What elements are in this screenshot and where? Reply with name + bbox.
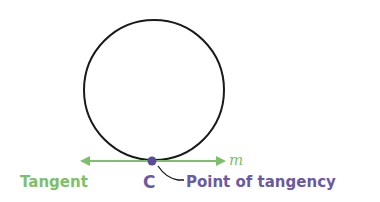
- tangent-label: Tangent: [20, 173, 88, 191]
- leader-line: [158, 166, 184, 180]
- line-m-label: m: [229, 151, 243, 169]
- point-of-tangency-label: Point of tangency: [186, 173, 336, 191]
- tangent-diagram: [0, 0, 380, 202]
- circle: [84, 20, 224, 160]
- point-c-dot: [148, 157, 157, 166]
- point-c-label: C: [143, 172, 155, 192]
